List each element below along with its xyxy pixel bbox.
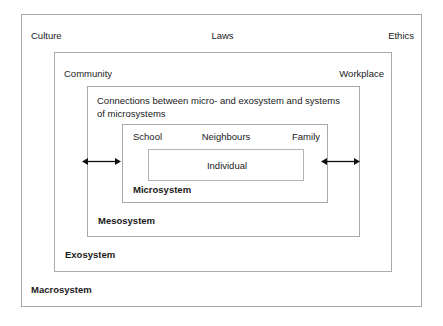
label-mesosystem: Mesosystem [98, 215, 155, 227]
microsystem-label-row: School Neighbours Family [123, 131, 329, 145]
mesosystem-caption: Connections between micro- and exosystem… [97, 95, 347, 120]
mesosystem-box: Connections between micro- and exosystem… [87, 86, 360, 237]
microsystem-box: School Neighbours Family Individual Micr… [122, 124, 328, 203]
macrosystem-label-row: Culture Laws Ethics [22, 30, 423, 44]
label-macrosystem: Macrosystem [31, 284, 92, 296]
label-ethics: Ethics [22, 30, 414, 42]
label-exosystem: Exosystem [65, 249, 115, 261]
right-bidirectional-arrow-icon [321, 156, 360, 167]
exosystem-label-row: Community Workplace [55, 68, 393, 82]
label-family: Family [123, 131, 320, 143]
individual-box: Individual [148, 149, 304, 181]
label-microsystem: Microsystem [133, 184, 191, 196]
left-bidirectional-arrow-icon [82, 156, 121, 167]
label-workplace: Workplace [55, 68, 384, 80]
label-individual: Individual [149, 160, 305, 172]
ecological-systems-diagram: Culture Laws Ethics Community Workplace … [0, 0, 443, 326]
